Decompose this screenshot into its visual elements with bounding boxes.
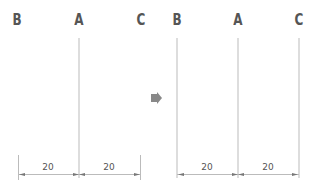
- label-a-right: A: [232, 11, 245, 29]
- left-panel: [19, 38, 141, 180]
- dim-arrowhead: [79, 173, 85, 176]
- label-b-right: B: [171, 11, 184, 29]
- right-arrow-icon: [151, 92, 162, 104]
- label-c-left: C: [135, 11, 148, 29]
- dimension-value: 20: [38, 162, 58, 172]
- label-b-left: B: [11, 11, 24, 29]
- dim-arrowhead: [232, 173, 238, 176]
- dim-arrowhead: [134, 173, 140, 176]
- dimension-value: 20: [99, 162, 119, 172]
- dim-arrowhead: [238, 173, 244, 176]
- right-panel: [177, 38, 299, 178]
- dimension-value: 20: [197, 162, 217, 172]
- diagram-canvas: [0, 0, 318, 187]
- dimension-value: 20: [258, 162, 278, 172]
- label-a-left: A: [73, 11, 86, 29]
- dim-arrowhead: [178, 173, 184, 176]
- label-c-right: C: [293, 11, 306, 29]
- dim-arrowhead: [73, 173, 79, 176]
- dim-arrowhead: [292, 173, 298, 176]
- dim-arrowhead: [19, 173, 25, 176]
